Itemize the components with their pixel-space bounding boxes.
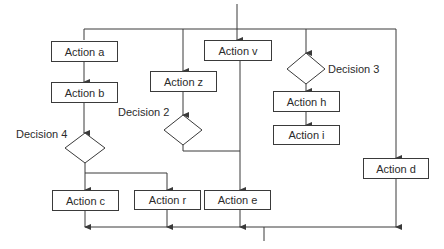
action-h-box: Action h	[273, 91, 340, 112]
decision-3-label: Decision 3	[328, 63, 379, 75]
action-a-box: Action a	[51, 41, 118, 62]
flowchart: Action a Action b Action c Action r Acti…	[0, 0, 444, 249]
decision-3-diamond	[287, 53, 325, 84]
action-r-box: Action r	[134, 190, 201, 210]
flowchart-connectors	[0, 0, 444, 249]
action-c-box: Action c	[52, 190, 119, 211]
decision-4-diamond	[65, 133, 105, 163]
decision-2-label: Decision 2	[118, 106, 169, 118]
action-b-box: Action b	[51, 82, 118, 103]
action-z-box: Action z	[150, 71, 217, 92]
decision-4-label: Decision 4	[16, 128, 67, 140]
action-e-box: Action e	[204, 190, 271, 210]
action-i-box: Action i	[273, 125, 340, 145]
top-branch-line	[84, 29, 396, 40]
action-d-box: Action d	[363, 158, 429, 179]
action-v-box: Action v	[204, 40, 272, 61]
decision-2-diamond	[164, 115, 202, 145]
